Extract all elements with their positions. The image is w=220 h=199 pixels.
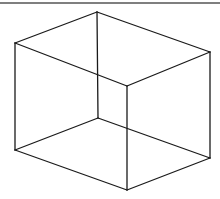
edge-top-back-to-bottom-back — [97, 12, 98, 118]
edge-bottom-back-to-bottom-left — [15, 118, 98, 150]
edge-bottom-back-to-bottom-right — [98, 118, 210, 158]
box-edges — [15, 12, 210, 190]
edge-bottom-left-to-bottom-front — [15, 150, 127, 190]
edge-top-right-to-top-front — [127, 52, 210, 86]
diagram-canvas — [0, 0, 220, 199]
edge-top-back-to-top-right — [97, 12, 210, 52]
edge-top-left-to-top-front — [15, 43, 127, 86]
edge-bottom-right-to-bottom-front — [127, 158, 210, 190]
wireframe-box-diagram — [0, 0, 220, 199]
edge-top-back-to-top-left — [15, 12, 97, 43]
